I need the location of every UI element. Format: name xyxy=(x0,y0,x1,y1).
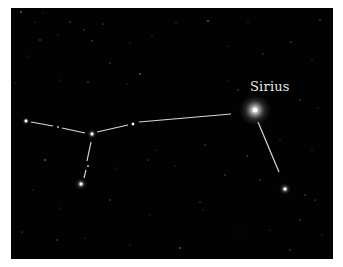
background-star xyxy=(22,232,23,233)
background-star xyxy=(312,60,313,61)
background-star xyxy=(312,150,313,151)
background-star xyxy=(152,36,153,37)
background-star xyxy=(156,150,157,151)
star-sirius xyxy=(239,94,271,126)
background-star xyxy=(300,100,301,101)
background-star xyxy=(319,19,321,21)
background-star xyxy=(15,83,16,84)
background-star xyxy=(35,22,36,23)
constellation-lines xyxy=(31,114,279,178)
star-middle-star xyxy=(130,121,136,127)
background-star xyxy=(280,140,281,141)
background-star xyxy=(85,238,86,239)
background-star xyxy=(27,56,28,57)
background-stars xyxy=(15,11,323,251)
background-star xyxy=(289,249,291,251)
background-star xyxy=(203,210,204,211)
background-star xyxy=(175,166,176,167)
background-star xyxy=(87,81,89,83)
background-star xyxy=(237,89,239,91)
constellation-line xyxy=(62,128,85,133)
background-star xyxy=(270,230,271,231)
constellation-line xyxy=(87,142,91,161)
background-star xyxy=(33,190,34,191)
star-small-star-b xyxy=(87,165,90,168)
background-star xyxy=(260,180,261,181)
background-star xyxy=(139,73,141,75)
background-star xyxy=(263,54,264,55)
background-star xyxy=(176,23,177,24)
background-star xyxy=(56,239,58,241)
background-star xyxy=(248,22,249,23)
constellation-line xyxy=(31,122,53,126)
background-star xyxy=(228,46,229,47)
background-star xyxy=(130,245,131,246)
background-star xyxy=(109,199,111,201)
background-star xyxy=(44,159,46,161)
background-star xyxy=(127,84,128,85)
background-star xyxy=(20,11,22,13)
background-star xyxy=(103,24,104,25)
background-star xyxy=(207,20,209,22)
star-lower-right-star xyxy=(279,183,291,195)
background-star xyxy=(228,81,229,82)
background-star xyxy=(318,108,319,109)
background-star xyxy=(304,194,306,196)
star-small-star-a xyxy=(57,126,60,129)
background-star xyxy=(224,174,226,176)
background-star xyxy=(91,40,93,42)
background-star xyxy=(179,247,181,249)
background-star xyxy=(130,43,131,44)
constellation-diagram xyxy=(0,0,343,267)
background-star xyxy=(115,168,116,169)
background-star xyxy=(200,202,201,203)
star-left-star xyxy=(22,117,30,125)
background-star xyxy=(299,219,301,221)
background-star xyxy=(150,215,151,216)
background-star xyxy=(110,63,111,64)
star-junction-star xyxy=(87,129,97,139)
background-star xyxy=(240,232,241,233)
constellation-line xyxy=(84,170,86,178)
constellation-line xyxy=(258,122,279,172)
background-star xyxy=(84,30,85,31)
background-star xyxy=(58,35,59,36)
sirius-label: Sirius xyxy=(250,79,290,94)
background-star xyxy=(204,144,206,146)
star-lower-left-star xyxy=(75,178,87,190)
constellation-line xyxy=(97,125,128,132)
background-star xyxy=(60,80,61,81)
background-star xyxy=(290,41,292,43)
constellation-stars xyxy=(22,94,291,195)
background-star xyxy=(39,39,41,41)
background-star xyxy=(148,160,149,161)
constellation-line xyxy=(139,114,231,122)
background-star xyxy=(43,13,44,14)
background-star xyxy=(69,21,71,23)
background-star xyxy=(315,200,316,201)
background-star xyxy=(322,235,323,236)
background-star xyxy=(246,155,248,157)
background-star xyxy=(60,208,61,209)
